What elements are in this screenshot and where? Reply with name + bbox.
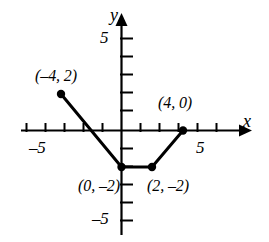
x-tick-label-5: 5 (196, 139, 204, 156)
data-point-2-neg2 (148, 163, 156, 171)
y-axis-label: y (110, 6, 118, 24)
coordinate-plane-svg (0, 0, 269, 242)
point-label-2-neg2: (2, –2) (147, 178, 189, 194)
point-label-4-0: (4, 0) (158, 95, 192, 111)
point-label-0-neg2: (0, –2) (78, 178, 120, 194)
y-tick-label-neg5: –5 (92, 210, 109, 227)
x-axis-label: x (243, 112, 251, 130)
x-tick-label-neg5: –5 (29, 139, 46, 156)
y-tick-label-5: 5 (100, 29, 108, 46)
point-label-neg4-2: (–4, 2) (35, 68, 77, 84)
graph-figure: x y 5 –5 –5 5 (–4, 2) (0, –2) (2, –2) (4… (0, 0, 269, 242)
data-point-4-0 (179, 126, 187, 134)
data-point-0-neg2 (117, 163, 125, 171)
data-point-neg4-2 (57, 90, 65, 98)
